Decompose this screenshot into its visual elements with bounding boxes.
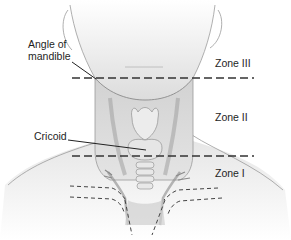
angle-of-mandible-label: Angle of mandible: [28, 38, 88, 62]
cricoid-label: Cricoid: [34, 130, 67, 142]
neck-zones-diagram: Angle of mandible Cricoid Zone III Zone …: [0, 0, 291, 240]
zone-2-label: Zone II: [215, 111, 248, 123]
zone-3-label: Zone III: [215, 57, 251, 69]
sternal-notch: [125, 200, 165, 225]
zone-1-label: Zone I: [215, 167, 245, 179]
